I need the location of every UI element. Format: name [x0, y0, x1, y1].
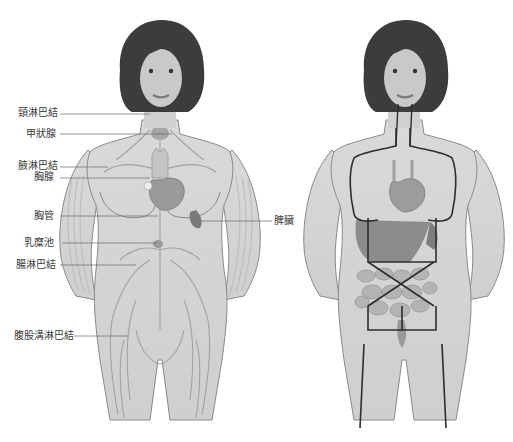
right-figure: [304, 20, 505, 428]
label-spleen: 脾臟: [274, 215, 294, 227]
anatomy-figure: 頸淋巴結 甲狀腺 腋淋巴結 胸腺 胸管 乳糜池 腸淋巴結 腹股溝淋巴結 脾臟: [0, 0, 513, 442]
label-thoracic-duct: 胸管: [34, 210, 54, 222]
label-cisterna-chyli: 乳糜池: [24, 237, 54, 249]
left-figure: [60, 20, 261, 420]
label-inguinal-lymph-nodes: 腹股溝淋巴結: [14, 330, 74, 342]
figure-illustration: [0, 0, 513, 442]
label-intestinal-lymph-nodes: 腸淋巴結: [16, 259, 56, 271]
label-cervical-lymph-nodes: 頸淋巴結: [18, 107, 58, 119]
label-thymus: 胸腺: [34, 171, 54, 183]
label-thyroid: 甲狀腺: [26, 128, 56, 140]
